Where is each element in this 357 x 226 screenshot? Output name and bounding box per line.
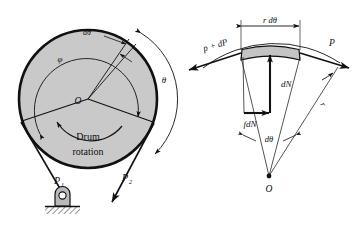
- phi-label: φ: [58, 54, 63, 64]
- normal-force-label: dN: [281, 79, 293, 89]
- p1-subscript: 1: [61, 181, 64, 188]
- engineering-figure: O dθ φ θ Drum rotation P 1 P 2: [0, 0, 357, 226]
- rotation-label-line1: Drum: [76, 131, 100, 142]
- p2-label: P: [121, 172, 128, 183]
- figure-root: O dθ φ θ Drum rotation P 1 P 2: [0, 0, 357, 226]
- ground-hatching: [45, 207, 80, 214]
- dtheta-angle-label: dθ: [265, 134, 273, 144]
- element-center-label: O: [266, 184, 273, 194]
- p1-label: P: [53, 175, 60, 186]
- tension-right-label: P: [328, 38, 335, 48]
- rotation-label-line2: rotation: [72, 146, 103, 157]
- element-center-dot: [267, 174, 272, 179]
- p2-subscript: 2: [129, 178, 132, 185]
- friction-force-label: fdN: [243, 119, 257, 129]
- arc-length-label: r dθ: [263, 15, 277, 25]
- drum-center-label: O: [75, 96, 82, 106]
- theta-label: θ: [162, 75, 167, 85]
- pin-support-pin: [59, 192, 66, 199]
- dtheta-label: dθ: [83, 28, 91, 37]
